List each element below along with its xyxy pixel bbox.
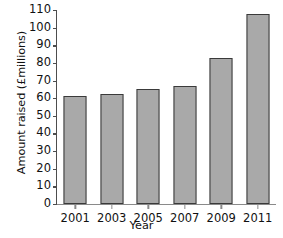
- x-tick-mark: [75, 205, 76, 209]
- bar: [137, 89, 160, 204]
- y-tick-label: 10: [36, 181, 51, 193]
- bar-slot: 2003: [94, 10, 131, 204]
- x-tick-mark: [257, 205, 258, 209]
- y-tick-label: 0: [44, 198, 51, 210]
- y-tick-label: 30: [36, 145, 51, 157]
- x-tick-mark: [148, 205, 149, 209]
- y-tick-label: 50: [36, 110, 51, 122]
- bar: [246, 14, 269, 204]
- bar-slot: 2001: [57, 10, 94, 204]
- y-tick-label: 110: [29, 4, 51, 16]
- x-axis-title: Year: [0, 219, 283, 232]
- bar: [64, 96, 87, 204]
- x-tick-mark: [184, 205, 185, 209]
- bar-slot: 2007: [167, 10, 204, 204]
- y-tick-label: 60: [36, 92, 51, 104]
- y-tick-label: 80: [36, 57, 51, 69]
- y-tick-label: 40: [36, 128, 51, 140]
- y-tick-label: 70: [36, 75, 51, 87]
- bar: [173, 86, 196, 204]
- y-tick-label: 20: [36, 163, 51, 175]
- x-tick-mark: [111, 205, 112, 209]
- bar-slot: 2005: [130, 10, 167, 204]
- bar: [210, 58, 233, 204]
- bar: [100, 94, 123, 204]
- bar-slot: 2011: [240, 10, 277, 204]
- x-tick-mark: [221, 205, 222, 209]
- y-tick-mark: [53, 204, 57, 205]
- y-tick-label: 90: [36, 40, 51, 52]
- y-tick-label: 100: [29, 22, 51, 34]
- bar-chart: Amount raised (£millions) 01020304050607…: [0, 0, 283, 238]
- bars-layer: 200120032005200720092011: [57, 10, 276, 204]
- plot-area: 0102030405060708090100110 20012003200520…: [57, 10, 276, 204]
- bar-slot: 2009: [203, 10, 240, 204]
- y-axis-title: Amount raised (£millions): [15, 3, 28, 203]
